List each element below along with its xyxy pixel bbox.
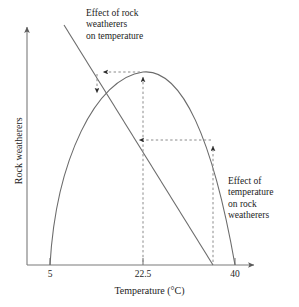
figure-canvas: Effect of rock weatherers on temperature…	[0, 0, 299, 307]
diagram-svg	[0, 0, 299, 307]
annotation-temperature-on-rock-weatherers: Effect of temperature on rock weatherers	[228, 176, 273, 222]
annotation-rock-weatherers-on-temperature: Effect of rock weatherers on temperature	[86, 8, 143, 42]
construction-arrows	[97, 72, 213, 262]
x-tick-label-40: 40	[215, 269, 255, 279]
x-axis	[27, 258, 254, 265]
weatherers-effect-line	[64, 25, 213, 265]
y-axis-title: Rock weatherers	[13, 86, 24, 216]
x-tick-label-5: 5	[30, 269, 70, 279]
x-tick-label-22-5: 22.5	[123, 269, 163, 279]
x-axis-title: Temperature (°C)	[0, 285, 299, 296]
